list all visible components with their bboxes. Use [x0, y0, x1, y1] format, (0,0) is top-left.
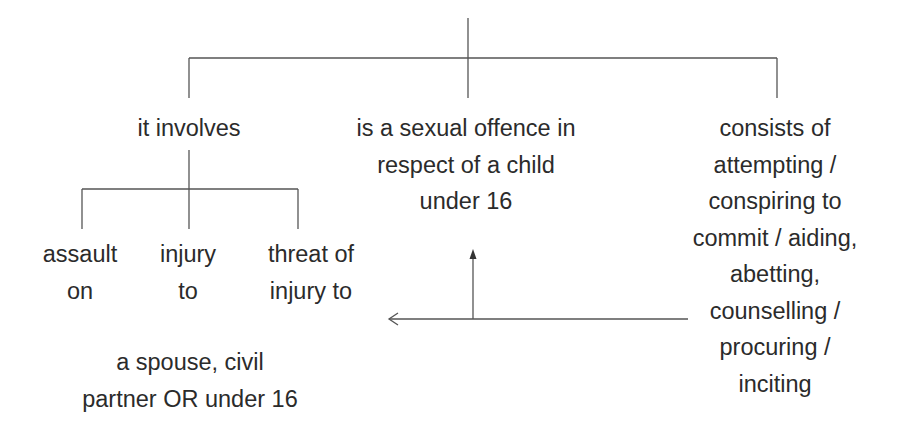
node-sexual-offence: is a sexual offence in respect of a chil…	[316, 110, 616, 220]
node-line: injury to	[251, 273, 371, 310]
node-line: partner OR under 16	[60, 381, 320, 418]
node-line: commit / aiding,	[680, 220, 870, 257]
node-assault-on: assault on	[30, 236, 130, 309]
node-line: it involves	[89, 110, 289, 147]
node-it-involves: it involves	[89, 110, 289, 147]
node-line: assault	[30, 236, 130, 273]
arrow-up-head-icon	[470, 249, 477, 259]
node-line: a spouse, civil	[60, 344, 320, 381]
node-line: counselling /	[680, 293, 870, 330]
node-line: on	[30, 273, 130, 310]
node-threat-of-injury-to: threat of injury to	[251, 236, 371, 309]
node-injury-to: injury to	[138, 236, 238, 309]
node-line: consists of	[680, 110, 870, 147]
node-line: abetting,	[680, 256, 870, 293]
node-line: to	[138, 273, 238, 310]
node-line: respect of a child	[316, 147, 616, 184]
node-line: is a sexual offence in	[316, 110, 616, 147]
node-line: conspiring to	[680, 183, 870, 220]
node-line: threat of	[251, 236, 371, 273]
node-line: attempting /	[680, 147, 870, 184]
node-victims: a spouse, civil partner OR under 16	[60, 344, 320, 417]
node-consists-of: consists of attempting / conspiring to c…	[680, 110, 870, 402]
node-line: procuring /	[680, 329, 870, 366]
node-line: inciting	[680, 366, 870, 403]
node-line: injury	[138, 236, 238, 273]
node-line: under 16	[316, 183, 616, 220]
